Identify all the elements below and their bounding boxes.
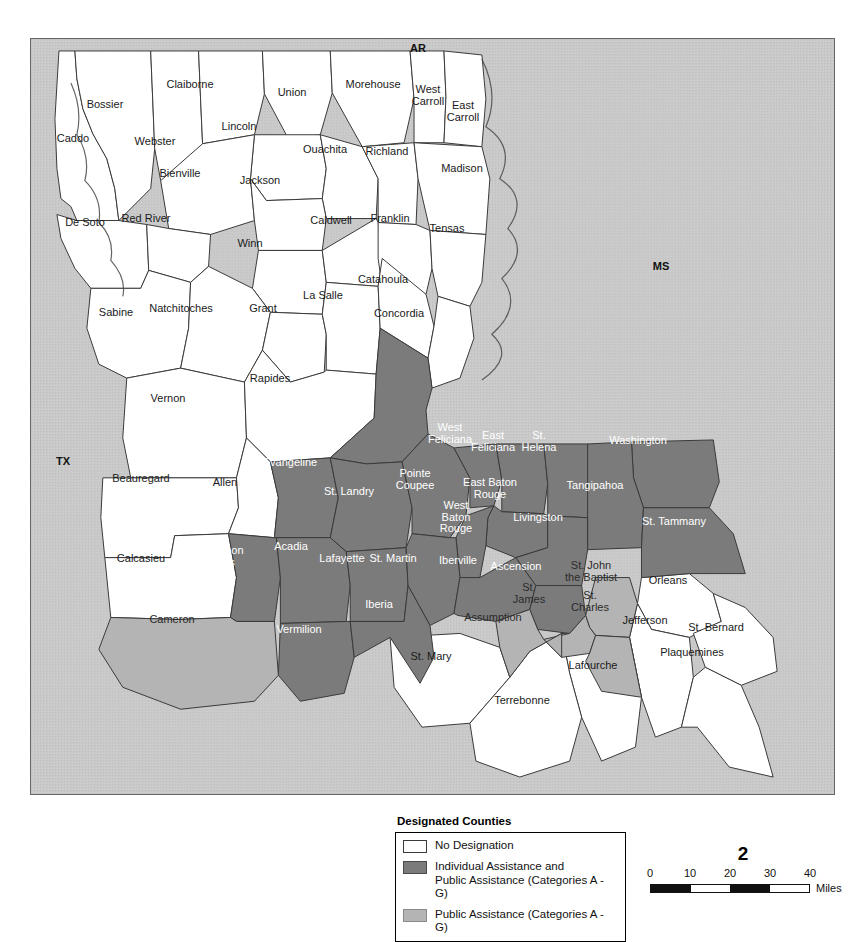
legend-swatch-no-designation <box>403 840 427 853</box>
parish-east-feliciana <box>496 444 548 514</box>
scale-tick-labels: 010203040 <box>650 867 825 881</box>
scale-bar-row: Miles <box>650 882 865 894</box>
legend-label-no-designation: No Designation <box>435 839 514 853</box>
scale-tick-30: 30 <box>764 867 776 879</box>
scale-tick-20: 20 <box>724 867 736 879</box>
parish-west-carroll <box>410 51 446 143</box>
parish-evangeline <box>270 458 338 538</box>
legend-label-public-assistance: Public Assistance (Categories A - G) <box>435 908 617 935</box>
state-label-ms: MS <box>653 260 670 272</box>
parish-vernon <box>123 368 247 478</box>
parish-east-baton-rouge <box>486 506 548 558</box>
scale-bar <box>650 884 810 893</box>
legend-item-individual-and-public-assistance: Individual Assistance and Public Assista… <box>403 860 617 901</box>
parish-lincoln <box>250 135 326 201</box>
legend-swatch-individual-and-public-assistance <box>403 861 427 874</box>
scale-units-label: Miles <box>816 882 842 894</box>
legend-box: No Designation Individual Assistance and… <box>395 832 626 942</box>
legend-item-no-designation: No Designation <box>403 839 617 853</box>
parish-washington <box>632 440 720 508</box>
louisiana-parish-map <box>31 39 834 794</box>
parish-st-landry <box>330 458 412 552</box>
legend-swatch-public-assistance <box>403 909 427 922</box>
parish-st-john-the-baptist <box>586 578 638 638</box>
scale-bar-group: 2 010203040 Miles <box>650 843 865 894</box>
parish-st-helena <box>544 444 592 518</box>
parish-acadia <box>276 538 350 624</box>
state-label-tx: TX <box>56 455 70 467</box>
parish-claiborne <box>199 51 265 144</box>
legend: Designated Counties No Designation Indiv… <box>395 815 645 942</box>
figure-number: 2 <box>688 843 798 865</box>
state-label-ar: AR <box>410 42 426 54</box>
legend-title: Designated Counties <box>397 815 645 827</box>
legend-label-individual-and-public-assistance: Individual Assistance and Public Assista… <box>435 860 617 901</box>
parish-east-carroll <box>444 51 486 147</box>
parish-vermilion <box>278 621 354 701</box>
parish-jefferson-davis <box>229 534 281 622</box>
scale-tick-40: 40 <box>804 867 816 879</box>
parish-lafayette <box>346 548 408 622</box>
scale-tick-10: 10 <box>684 867 696 879</box>
legend-item-public-assistance: Public Assistance (Categories A - G) <box>403 908 617 935</box>
map-frame: CaddoBossierWebsterClaiborneUnionMorehou… <box>30 38 835 795</box>
scale-tick-0: 0 <box>647 867 653 879</box>
parish-lasalle <box>322 282 380 374</box>
